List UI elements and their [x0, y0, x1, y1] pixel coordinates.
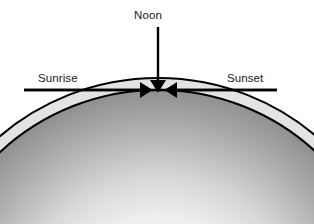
noon-label: Noon — [134, 10, 162, 22]
sun-path-horizon-diagram: Noon Sunrise Sunset — [0, 0, 314, 224]
sunset-label: Sunset — [227, 73, 263, 85]
diagram-canvas — [0, 0, 314, 224]
sunrise-label: Sunrise — [38, 73, 78, 85]
